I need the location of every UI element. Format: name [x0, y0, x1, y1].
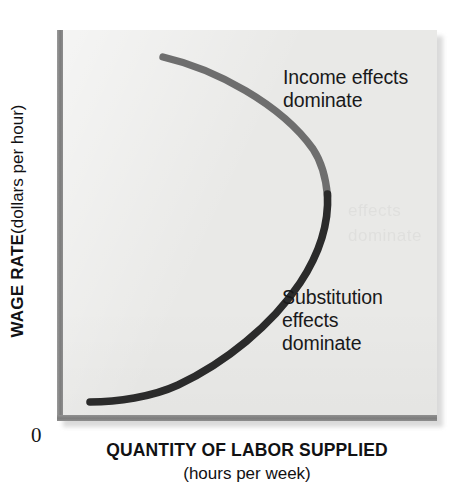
- y-axis-title: WAGE RATE (dollars per hour): [1, 26, 35, 417]
- y-axis-title-main: WAGE RATE: [8, 234, 28, 338]
- y-axis-title-unit: (dollars per hour): [8, 105, 28, 234]
- annotation-substitution-effects: Substitution effects dominate: [282, 286, 383, 355]
- x-axis-title-subtitle: (hours per week): [57, 464, 437, 484]
- origin-label: 0: [31, 423, 42, 448]
- annotation-income-effects: Income effects dominate: [283, 66, 408, 112]
- labor-supply-figure: effects dominate Income effects dominate…: [0, 0, 464, 504]
- x-axis-title-main: QUANTITY OF LABOR SUPPLIED: [57, 440, 437, 461]
- x-axis-title: QUANTITY OF LABOR SUPPLIED (hours per we…: [57, 440, 437, 484]
